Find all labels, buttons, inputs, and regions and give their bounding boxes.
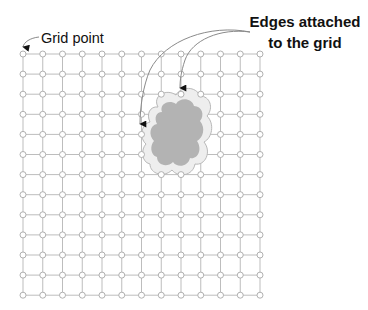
grid-point-node bbox=[218, 91, 224, 97]
grid-point-node bbox=[40, 152, 46, 158]
grid-point-node bbox=[237, 272, 243, 278]
grid-point-node bbox=[198, 252, 204, 258]
grid-point-node bbox=[218, 232, 224, 238]
grid-point-node bbox=[198, 292, 204, 298]
grid-point-node bbox=[79, 71, 85, 77]
grid-point-node bbox=[40, 252, 46, 258]
grid-point-node bbox=[99, 91, 105, 97]
grid-point-node bbox=[99, 212, 105, 218]
grid-point-node bbox=[158, 272, 164, 278]
grid-point-node bbox=[257, 71, 263, 77]
grid-point-node bbox=[178, 212, 184, 218]
grid-point-node bbox=[257, 232, 263, 238]
grid-point-node bbox=[60, 91, 66, 97]
grid-point-node bbox=[218, 292, 224, 298]
grid-point-node bbox=[119, 232, 125, 238]
grid-point-node bbox=[218, 212, 224, 218]
grid-point-node bbox=[60, 71, 66, 77]
grid-point-node bbox=[257, 212, 263, 218]
grid-point-node bbox=[99, 51, 105, 57]
grid-point-node bbox=[60, 51, 66, 57]
grid-point-node bbox=[198, 51, 204, 57]
grid-point-node bbox=[79, 91, 85, 97]
grid-point-node bbox=[257, 272, 263, 278]
grid-point-node bbox=[257, 152, 263, 158]
grid-point-node bbox=[158, 212, 164, 218]
grid-point-node bbox=[139, 51, 145, 57]
edges-label-line1: Edges attached bbox=[250, 13, 361, 30]
grid-point-node bbox=[60, 252, 66, 258]
grid-point-node bbox=[20, 292, 26, 298]
grid-point-node bbox=[79, 172, 85, 178]
grid-point-node bbox=[99, 172, 105, 178]
edges-leader-right bbox=[180, 31, 250, 88]
grid-point-node bbox=[40, 212, 46, 218]
grid-point-node bbox=[237, 192, 243, 198]
grid-point-node bbox=[20, 272, 26, 278]
grid-point-node bbox=[237, 252, 243, 258]
grid-point-node bbox=[257, 292, 263, 298]
grid-point-node bbox=[40, 232, 46, 238]
grid-point-node bbox=[20, 232, 26, 238]
edges-label-line2: to the grid bbox=[268, 34, 341, 51]
grid-point-node bbox=[20, 212, 26, 218]
diagram-canvas: Grid point Edges attached to the grid bbox=[0, 0, 368, 310]
grid-point-node bbox=[119, 212, 125, 218]
grid-point-node bbox=[257, 51, 263, 57]
grid-point-node bbox=[158, 172, 164, 178]
grid-point-node bbox=[119, 252, 125, 258]
grid-point-node bbox=[40, 51, 46, 57]
grid-point-node bbox=[60, 192, 66, 198]
grid-point-node bbox=[158, 91, 164, 97]
grid-point-node bbox=[20, 172, 26, 178]
grid-point-node bbox=[119, 272, 125, 278]
grid-point-node bbox=[99, 272, 105, 278]
grid-point-callout: Grid point bbox=[23, 30, 104, 47]
grid-point-node bbox=[178, 192, 184, 198]
grid-point-node bbox=[218, 71, 224, 77]
grid-point-node bbox=[257, 91, 263, 97]
grid-point-node bbox=[79, 252, 85, 258]
grid-point-node bbox=[198, 272, 204, 278]
grid-point-node bbox=[139, 131, 145, 137]
grid-point-node bbox=[178, 272, 184, 278]
grid-point-node bbox=[237, 172, 243, 178]
grid-point-node bbox=[198, 232, 204, 238]
grid-point-node bbox=[60, 272, 66, 278]
grid-point-node bbox=[139, 292, 145, 298]
grid-point-node bbox=[79, 152, 85, 158]
grid-point-node bbox=[60, 111, 66, 117]
grid-point-node bbox=[79, 212, 85, 218]
grid-point-node bbox=[20, 152, 26, 158]
grid-point-node bbox=[158, 192, 164, 198]
grid-point-node bbox=[20, 252, 26, 258]
grid-point-node bbox=[158, 232, 164, 238]
grid-point-node bbox=[119, 51, 125, 57]
grid-point-node bbox=[139, 232, 145, 238]
grid-point-node bbox=[20, 192, 26, 198]
grid-point-node bbox=[79, 232, 85, 238]
grid-point-node bbox=[218, 172, 224, 178]
grid-point-node bbox=[257, 252, 263, 258]
grid-point-node bbox=[119, 192, 125, 198]
grid-point-node bbox=[119, 111, 125, 117]
grid-point-node bbox=[237, 51, 243, 57]
grid-point-node bbox=[40, 131, 46, 137]
grid-point-node bbox=[99, 131, 105, 137]
grid-point-node bbox=[198, 172, 204, 178]
grid-point-node bbox=[139, 272, 145, 278]
grid-point-node bbox=[79, 272, 85, 278]
grid-point-node bbox=[237, 91, 243, 97]
grid-point-node bbox=[40, 192, 46, 198]
grid-point-node bbox=[237, 292, 243, 298]
grid-point-node bbox=[178, 91, 184, 97]
grid-point-label: Grid point bbox=[41, 30, 104, 46]
grid-point-node bbox=[158, 292, 164, 298]
grid-point-node bbox=[20, 91, 26, 97]
grid-point-node bbox=[60, 152, 66, 158]
grid-point-node bbox=[178, 252, 184, 258]
grid-point-node bbox=[139, 172, 145, 178]
grid-point-node bbox=[99, 232, 105, 238]
grid-point-node bbox=[79, 292, 85, 298]
grid-point-node bbox=[119, 172, 125, 178]
